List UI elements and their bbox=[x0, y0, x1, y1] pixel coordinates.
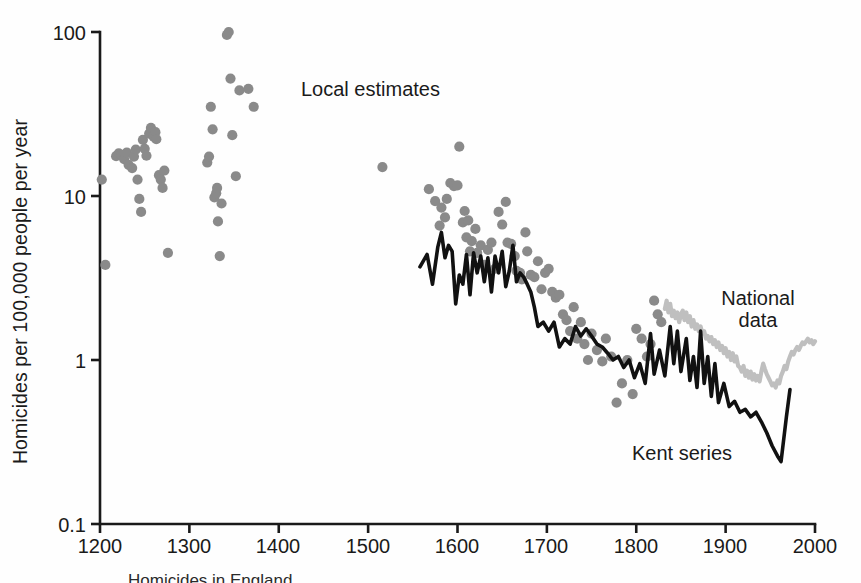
x-tick-label-1300: 1300 bbox=[149, 535, 229, 558]
chart-figure: Homicides per 100,000 people per year 10… bbox=[0, 0, 861, 583]
x-tick-label-1500: 1500 bbox=[328, 535, 408, 558]
line-kent-series bbox=[420, 232, 790, 461]
y-tick-label-10: 10 bbox=[18, 186, 86, 209]
x-tick-label-1200: 1200 bbox=[60, 535, 140, 558]
x-tick-label-2000: 2000 bbox=[775, 535, 855, 558]
annotation-national-data: National data bbox=[702, 287, 814, 332]
y-tick-label-1: 1 bbox=[18, 350, 86, 373]
y-tick-label-0.1: 0.1 bbox=[18, 514, 86, 537]
x-tick-label-1800: 1800 bbox=[596, 535, 676, 558]
annotation-kent-series: Kent series bbox=[632, 442, 732, 464]
y-tick-label-100: 100 bbox=[18, 22, 86, 45]
annotation-national-data-line2: data bbox=[702, 309, 814, 331]
figure-caption: Homicides in England bbox=[128, 571, 292, 583]
x-tick-label-1700: 1700 bbox=[506, 535, 586, 558]
x-tick-label-1400: 1400 bbox=[238, 535, 318, 558]
x-tick-label-1900: 1900 bbox=[685, 535, 765, 558]
annotation-national-data-line1: National bbox=[702, 287, 814, 309]
annotation-local-estimates: Local estimates bbox=[301, 78, 440, 100]
x-tick-label-1600: 1600 bbox=[417, 535, 497, 558]
